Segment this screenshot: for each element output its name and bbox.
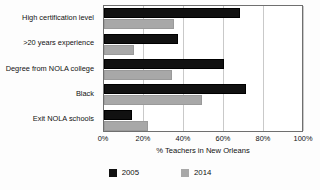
bar-group xyxy=(104,57,302,82)
bar-2005-2 xyxy=(104,59,224,69)
x-tick-100: 100% xyxy=(294,134,313,143)
legend-item-2005[interactable]: 2005 xyxy=(109,168,139,177)
category-label-2: Degree from NOLA college xyxy=(6,64,94,73)
legend-label-2014: 2014 xyxy=(194,168,211,177)
x-tick-60: 60% xyxy=(216,134,231,143)
bar-2005-4 xyxy=(104,110,132,120)
plot-area xyxy=(103,5,303,132)
category-label-3: Black xyxy=(76,89,94,98)
bar-2014-2 xyxy=(104,70,172,80)
category-label-1: >20 years experience xyxy=(23,38,94,47)
bar-2005-3 xyxy=(104,84,246,94)
bar-chart: High certification level>20 years experi… xyxy=(0,0,320,190)
bar-group xyxy=(104,31,302,56)
legend-swatch-2014 xyxy=(181,169,189,177)
x-tick-80: 80% xyxy=(256,134,271,143)
legend-swatch-2005 xyxy=(109,169,117,177)
x-tick-20: 20% xyxy=(136,134,151,143)
bar-2014-3 xyxy=(104,95,202,105)
category-label-4: Exit NOLA schools xyxy=(33,114,94,123)
bar-2014-4 xyxy=(104,121,148,131)
bar-group xyxy=(104,6,302,31)
bar-2014-0 xyxy=(104,19,174,29)
gridline-100 xyxy=(303,6,304,131)
legend-item-2014[interactable]: 2014 xyxy=(181,168,211,177)
bar-2005-1 xyxy=(104,34,178,44)
category-label-0: High certification level xyxy=(22,13,94,22)
bar-group xyxy=(104,108,302,133)
bar-group xyxy=(104,82,302,107)
bar-2005-0 xyxy=(104,8,240,18)
x-axis-title: % Teachers in New Orleans xyxy=(103,146,303,155)
x-tick-40: 40% xyxy=(176,134,191,143)
bar-series-group xyxy=(104,6,302,131)
bar-2014-1 xyxy=(104,45,134,55)
legend-label-2005: 2005 xyxy=(122,168,139,177)
x-tick-0: 0% xyxy=(98,134,109,143)
legend: 20052014 xyxy=(0,168,320,177)
